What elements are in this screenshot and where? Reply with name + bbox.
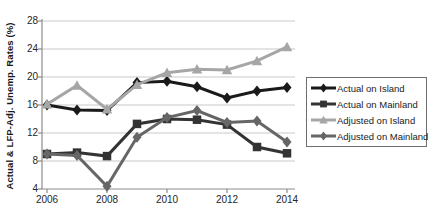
legend-item: Adjusted on Island (311, 112, 426, 128)
diamond-marker-icon (223, 93, 232, 104)
legend-marker-icon (311, 82, 336, 94)
legend: Actual on IslandActual on MainlandAdjust… (306, 77, 427, 147)
y-tick-label: 20 (12, 71, 38, 83)
x-tick-label: 2012 (209, 194, 245, 206)
y-tick-label: 16 (12, 99, 38, 111)
x-tick-label: 2014 (269, 194, 305, 206)
diamond-marker-icon (320, 132, 327, 141)
legend-label: Adjusted on Mainland (337, 131, 428, 142)
legend-label: Actual on Mainland (337, 99, 418, 110)
x-tick-label: 2006 (29, 194, 65, 206)
triangle-marker-icon (72, 80, 83, 90)
legend-marker-icon (311, 130, 336, 142)
legend-item: Adjusted on Mainland (311, 128, 426, 144)
diamond-marker-icon (73, 104, 82, 115)
diamond-marker-icon (193, 81, 202, 92)
triangle-marker-icon (282, 42, 293, 52)
legend-marker-icon (311, 98, 336, 110)
legend-label: Actual on Island (337, 83, 405, 94)
y-tick-label: 12 (12, 127, 38, 139)
y-tick-label: 8 (12, 155, 38, 167)
legend-label: Adjusted on Island (337, 115, 415, 126)
square-marker-icon (253, 143, 262, 152)
square-marker-icon (320, 101, 327, 108)
diamond-marker-icon (320, 84, 327, 93)
legend-item: Actual on Mainland (311, 96, 426, 112)
x-tick-label: 2008 (89, 194, 125, 206)
y-tick-label: 24 (12, 43, 38, 55)
x-tick-label: 2010 (149, 194, 185, 206)
legend-item: Actual on Island (311, 80, 426, 96)
diamond-marker-icon (283, 82, 292, 93)
square-marker-icon (193, 115, 202, 124)
chart-container: Actual & LFP-Adj. Unemp. Rates (%) Actua… (0, 0, 433, 219)
square-marker-icon (133, 120, 142, 128)
y-tick-label: 28 (12, 15, 38, 27)
diamond-marker-icon (193, 105, 202, 116)
series-line (47, 119, 287, 156)
square-marker-icon (283, 149, 292, 158)
square-marker-icon (103, 152, 112, 161)
diamond-marker-icon (253, 86, 262, 97)
legend-marker-icon (311, 114, 336, 126)
